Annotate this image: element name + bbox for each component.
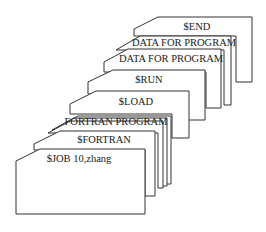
card-data-1-label: DATA FOR PROGRAM [119, 53, 224, 64]
card-job: $JOB 10,zhang [16, 149, 145, 214]
card-job-label: $JOB 10,zhang [47, 153, 112, 164]
card-deck-diagram: $END DATA FOR PROGRAM DATA FOR PROGRAM $… [0, 0, 266, 232]
card-load-label: $LOAD [119, 96, 154, 107]
card-fortran-label: $FORTRAN [77, 134, 131, 145]
card-end-label: $END [184, 21, 211, 32]
card-fortran-program-label: FORTRAN PROGRAM [65, 116, 169, 127]
card-data-2-label: DATA FOR PROGRAM [132, 37, 237, 48]
card-run-label: $RUN [135, 74, 163, 85]
